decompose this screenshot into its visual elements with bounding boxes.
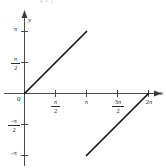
x-tick-label-3pi-over-2: 3π 2 bbox=[112, 99, 124, 115]
x-tick-label-pi-over-2: π 2 bbox=[51, 99, 60, 115]
y-axis-label: y bbox=[28, 17, 31, 24]
x-tick-label-2pi: 2π bbox=[143, 99, 155, 106]
origin-label: 0 bbox=[17, 96, 21, 103]
y-tick-label-neg-pi-over-2: -π 2 bbox=[8, 118, 20, 134]
curve-segment-1 bbox=[25, 32, 87, 94]
plot-figure: n = 1 y x 0 π bbox=[0, 0, 166, 168]
y-tick-label-pi-over-2: π 2 bbox=[11, 56, 20, 72]
y-tick-label-pi: π bbox=[11, 26, 20, 33]
y-tick-label-neg-pi: -π bbox=[8, 150, 20, 157]
plot-canvas bbox=[0, 0, 166, 168]
x-tick-label-pi: π bbox=[82, 99, 91, 106]
x-axis-label: x bbox=[160, 90, 163, 97]
y-axis-arrowhead bbox=[22, 10, 28, 18]
